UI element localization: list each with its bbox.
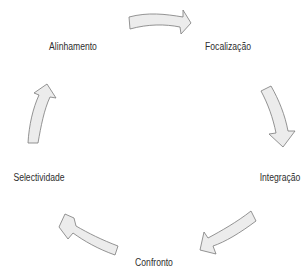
arrow-down-icon [261,86,295,147]
arrows-layer [0,0,306,277]
node-focalizacao: Focalização [205,41,251,52]
arrow-down-left-icon [200,211,256,254]
node-selectividade: Selectividade [13,172,64,183]
node-confronto: Confronto [135,257,173,268]
arrow-up-icon [28,84,56,143]
arrow-up-left-icon [59,214,118,255]
node-alinhamento: Alinhamento [49,41,97,52]
cycle-diagram: Alinhamento Focalização Integração Confr… [0,0,306,277]
node-integracao: Integração [260,172,301,183]
arrow-right-icon [129,10,191,34]
